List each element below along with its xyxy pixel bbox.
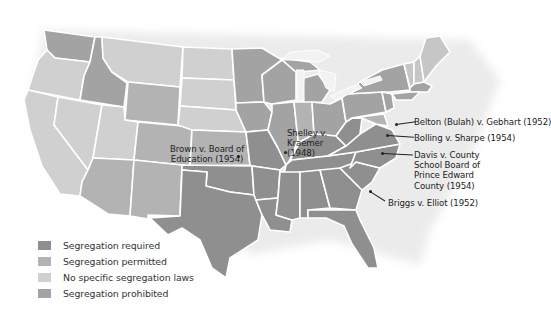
case-davis-line3: Prince Edward [414, 170, 480, 180]
case-davis-line2: School Board of [414, 160, 480, 170]
state-arkansas [252, 166, 280, 200]
case-briggs-marker [369, 190, 372, 193]
legend-item-permitted: Segregation permitted [38, 253, 194, 269]
case-brown-line1: Brown v. Board of [170, 144, 244, 154]
case-belton-line1: Belton (Bulah) v. Gebhart (1952) [414, 117, 551, 127]
case-brown-label: Brown v. Board of Education (1954) [170, 144, 244, 164]
case-brown-marker [237, 155, 240, 158]
lake-michigan [296, 70, 304, 102]
legend-label-required: Segregation required [63, 240, 160, 251]
legend-item-required: Segregation required [38, 237, 194, 253]
case-belton-marker [395, 123, 398, 126]
state-south-dakota [180, 78, 236, 110]
case-bolling-label: Bolling v. Sharpe (1954) [414, 133, 515, 143]
case-davis-marker [381, 152, 384, 155]
case-bolling-line1: Bolling v. Sharpe (1954) [414, 133, 515, 143]
map-legend: Segregation required Segregation permitt… [38, 237, 194, 301]
case-shelley-line1: Shelley v. [287, 128, 327, 138]
legend-item-prohibited: Segregation prohibited [38, 285, 194, 301]
case-davis-label: Davis v. County School Board of Prince E… [414, 150, 480, 191]
case-brown-line2: Education (1954) [170, 154, 244, 164]
legend-swatch-permitted [38, 257, 51, 266]
legend-swatch-none [38, 273, 51, 282]
state-north-dakota [182, 47, 234, 80]
case-briggs-line1: Briggs v. Elliot (1952) [388, 198, 478, 208]
case-davis-line4: County (1954) [414, 181, 480, 191]
state-wyoming [125, 82, 180, 125]
case-shelley-line2: Kraemer [287, 138, 327, 148]
case-shelley-line3: (1948) [287, 148, 327, 158]
case-briggs-label: Briggs v. Elliot (1952) [388, 198, 478, 208]
case-davis-line1: Davis v. County [414, 150, 480, 160]
legend-label-prohibited: Segregation prohibited [63, 288, 168, 299]
legend-swatch-required [38, 241, 51, 250]
legend-label-none: No specific segregation laws [63, 272, 194, 283]
case-bolling-marker [386, 134, 389, 137]
case-shelley-label: Shelley v. Kraemer (1948) [287, 128, 327, 159]
legend-label-permitted: Segregation permitted [63, 256, 167, 267]
state-new-mexico [130, 160, 182, 219]
state-mississippi [276, 172, 300, 220]
case-shelley-marker [284, 151, 287, 154]
case-belton-label: Belton (Bulah) v. Gebhart (1952) [414, 117, 551, 127]
legend-item-none: No specific segregation laws [38, 269, 194, 285]
legend-swatch-prohibited [38, 289, 51, 298]
